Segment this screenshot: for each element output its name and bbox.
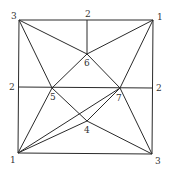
edge-p7-p6	[87, 54, 120, 88]
edge-tl-p5	[19, 20, 52, 88]
vertex-label-p7: 7	[116, 93, 122, 103]
edge-p7-bl	[18, 88, 120, 153]
vertex-label-mr: 2	[156, 83, 162, 93]
vertex-label-ml: 2	[9, 82, 15, 92]
edge-p5-p4	[52, 88, 87, 121]
vertex-label-br: 3	[155, 156, 161, 166]
edge-tl-p6	[19, 20, 87, 54]
vertex-label-p4: 4	[84, 125, 90, 135]
edge-br-bl	[18, 153, 152, 154]
crease-diagram: 32122134567	[0, 0, 169, 170]
vertex-label-tm: 2	[85, 9, 91, 19]
vertex-label-p5: 5	[50, 92, 56, 102]
edge-bl-p4	[18, 121, 87, 153]
edge-ml-mr	[18, 87, 153, 88]
vertex-label-tr: 1	[157, 12, 163, 22]
edge-p6-p5	[52, 54, 87, 88]
edge-bl-p5	[18, 88, 52, 153]
edge-bl-tl	[18, 20, 19, 153]
edge-tr-p6	[87, 20, 153, 54]
edge-tr-br	[152, 20, 153, 154]
vertex-label-p6: 6	[84, 58, 90, 68]
edge-tr-p7	[120, 20, 153, 88]
vertex-label-tl: 3	[11, 11, 17, 21]
vertex-label-bl: 1	[10, 155, 16, 165]
edge-br-p7	[120, 88, 152, 154]
edge-p4-br	[87, 121, 152, 154]
